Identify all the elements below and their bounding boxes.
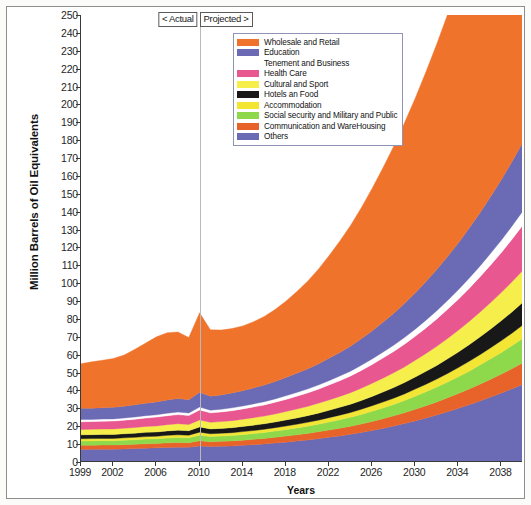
legend-label: Wholesale and Retail	[264, 38, 339, 47]
legend-label: Cultural and Sport	[264, 80, 328, 89]
y-tick-mark	[76, 408, 80, 409]
x-tick-mark	[414, 462, 415, 466]
projected-period-label: Projected >	[200, 12, 253, 27]
y-tick-mark	[76, 283, 80, 284]
x-tick-mark	[242, 462, 243, 466]
y-tick-label: 230	[44, 46, 78, 56]
y-tick-mark	[76, 87, 80, 88]
y-tick-mark	[76, 140, 80, 141]
legend-label: Hotels an Food	[264, 90, 318, 99]
y-tick-mark	[76, 158, 80, 159]
legend-label: Accommodation	[264, 101, 321, 110]
y-tick-label: 200	[44, 99, 78, 109]
legend-item: Social security and Military and Public	[237, 111, 398, 122]
legend-swatch	[237, 39, 259, 46]
legend-swatch	[237, 81, 259, 88]
x-tick-mark	[112, 462, 113, 466]
y-tick-mark	[76, 426, 80, 427]
y-tick-label: 140	[44, 207, 78, 217]
legend-swatch	[237, 112, 259, 119]
x-axis-title: Years	[80, 484, 522, 496]
y-tick-mark	[76, 176, 80, 177]
legend-label: Social security and Military and Public	[264, 111, 398, 120]
y-tick-mark	[76, 104, 80, 105]
x-tick-label: 2022	[317, 466, 339, 478]
legend-label: Health Care	[264, 69, 307, 78]
x-tick-mark	[285, 462, 286, 466]
y-tick-label: 10	[44, 439, 78, 449]
y-tick-label: 70	[44, 332, 78, 342]
y-tick-label: 60	[44, 350, 78, 360]
x-tick-mark	[155, 462, 156, 466]
y-tick-label: 160	[44, 171, 78, 181]
legend-item: Communication and WareHousing	[237, 121, 398, 132]
legend-label: Education	[264, 48, 300, 57]
legend-label: Tenement and Business	[264, 59, 349, 68]
x-tick-label: 2030	[403, 466, 425, 478]
y-tick-mark	[76, 319, 80, 320]
actual-projected-divider	[200, 15, 201, 462]
x-tick-mark	[328, 462, 329, 466]
y-tick-mark	[76, 230, 80, 231]
legend-item: Others	[237, 132, 398, 143]
y-tick-label: 190	[44, 117, 78, 127]
legend-item: Education	[237, 48, 398, 59]
y-tick-label: 170	[44, 153, 78, 163]
legend-swatch	[237, 49, 259, 56]
x-tick-label: 2002	[101, 466, 123, 478]
legend-item: Wholesale and Retail	[237, 37, 398, 48]
actual-period-label: < Actual	[158, 12, 198, 27]
x-tick-label: 1999	[69, 466, 91, 478]
x-tick-mark	[500, 462, 501, 466]
legend-label: Others	[264, 132, 288, 141]
x-tick-label: 2014	[231, 466, 253, 478]
y-tick-mark	[76, 122, 80, 123]
x-tick-mark	[199, 462, 200, 466]
x-tick-label: 2034	[446, 466, 468, 478]
legend-item: Hotels an Food	[237, 90, 398, 101]
y-tick-mark	[76, 51, 80, 52]
legend-item: Accommodation	[237, 100, 398, 111]
legend: Wholesale and RetailEducationTenement an…	[233, 33, 403, 146]
y-tick-label: 150	[44, 189, 78, 199]
y-tick-mark	[76, 194, 80, 195]
y-tick-mark	[76, 373, 80, 374]
y-tick-label: 220	[44, 64, 78, 74]
legend-item: Health Care	[237, 69, 398, 80]
legend-item: Tenement and Business	[237, 58, 398, 69]
y-tick-label: 180	[44, 135, 78, 145]
legend-item: Cultural and Sport	[237, 79, 398, 90]
y-tick-label: 210	[44, 82, 78, 92]
y-tick-label: 240	[44, 28, 78, 38]
legend-swatch	[237, 60, 259, 67]
y-tick-mark	[76, 444, 80, 445]
y-tick-mark	[76, 212, 80, 213]
x-tick-mark	[80, 462, 81, 466]
x-tick-mark	[371, 462, 372, 466]
legend-swatch	[237, 70, 259, 77]
legend-swatch	[237, 133, 259, 140]
y-tick-mark	[76, 33, 80, 34]
y-tick-mark	[76, 265, 80, 266]
x-tick-mark	[457, 462, 458, 466]
x-tick-label: 2010	[187, 466, 209, 478]
x-tick-label: 2038	[489, 466, 511, 478]
y-tick-label: 130	[44, 225, 78, 235]
y-tick-label: 40	[44, 385, 78, 395]
x-tick-label: 2026	[360, 466, 382, 478]
y-tick-label: 100	[44, 278, 78, 288]
y-tick-mark	[76, 15, 80, 16]
stacked-area-chart: Million Barrels of Oil Equivalents 01020…	[0, 0, 531, 505]
x-tick-label: 2018	[274, 466, 296, 478]
y-tick-label: 120	[44, 242, 78, 252]
legend-label: Communication and WareHousing	[264, 122, 386, 131]
y-tick-label: 110	[44, 260, 78, 270]
legend-swatch	[237, 123, 259, 130]
y-tick-label: 30	[44, 403, 78, 413]
y-tick-label: 20	[44, 421, 78, 431]
x-axis-labels: 1999200220062010201420182022202620302034…	[0, 466, 531, 482]
y-tick-label: 80	[44, 314, 78, 324]
y-tick-label: 250	[44, 10, 78, 20]
y-tick-label: 50	[44, 368, 78, 378]
y-axis-labels: 0102030405060708090100110120130140150160…	[38, 0, 78, 470]
